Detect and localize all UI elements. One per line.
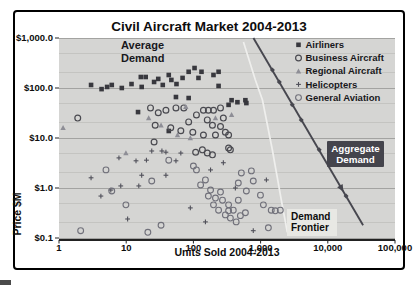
annotation-average-demand: Average Demand [121,39,164,64]
annotation-demand-frontier: Demand Frontier [287,209,337,236]
data-point [109,83,114,88]
data-point [139,85,144,90]
x-axis-title: Units Sold 2004-2013 [174,246,279,258]
legend-marker-square [296,43,301,48]
data-point [211,73,216,78]
x-tick-label: 1 [56,242,62,253]
x-tick-label: 10,000 [313,242,342,253]
data-point [192,66,197,71]
data-point [174,82,179,87]
average-demand-label-line2: Demand [121,52,164,64]
data-point [156,77,161,82]
data-point [180,76,185,81]
data-point [105,85,110,90]
average-demand-label-line1: Average [121,39,164,51]
legend-label-helicopters: Helicopters [306,79,358,90]
data-point [174,95,179,100]
y-tick-label: $1.0 [35,182,54,193]
civil-aircraft-market-chart: Civil Aircraft Market 2004-2013 1101001,… [0,0,418,285]
data-point [129,82,134,87]
legend-label-airliners: Airliners [306,39,345,50]
data-point [235,100,240,105]
data-point [216,84,221,89]
legend-label-regional-aircraft: Regional Aircraft [306,65,383,76]
x-tick-label: 10 [121,242,132,253]
data-point [99,87,104,92]
data-point [143,75,148,80]
data-point [89,83,94,88]
data-point [139,75,144,80]
legend-label-business-aircraft: Business Aircraft [306,52,385,63]
data-point [136,110,141,115]
demand-frontier-label-line1: Demand [291,211,330,222]
aggregate-demand-badge-line2: Demand [336,154,375,165]
x-tick-label: 100,000 [378,242,412,253]
y-tick-label: $0.1 [35,232,54,243]
y-tick-label: $1,000.0 [16,32,53,43]
data-point [226,103,231,108]
data-point [119,86,124,91]
data-point [169,78,174,83]
data-point [166,73,171,78]
demand-frontier-label-line2: Frontier [291,222,329,233]
data-point [186,96,191,101]
data-point [196,76,201,81]
legend-label-general-aviation: General Aviation [306,92,381,103]
data-point [160,83,165,88]
data-point [244,101,249,106]
scatter-chart: Civil Aircraft Market 2004-2013 1101001,… [0,0,418,285]
data-point [199,69,204,74]
y-tick-label: $100.0 [24,82,53,93]
chart-title: Civil Aircraft Market 2004-2013 [111,19,307,34]
data-point [229,98,234,103]
data-point [216,69,221,74]
data-point [186,69,191,74]
y-axis-title: Price $M [11,192,23,235]
data-point [152,80,157,85]
y-tick-label: $10.0 [29,132,53,143]
annotation-aggregate-demand-badge: Aggregate Demand [327,141,384,167]
aggregate-demand-badge-line1: Aggregate [331,143,380,154]
